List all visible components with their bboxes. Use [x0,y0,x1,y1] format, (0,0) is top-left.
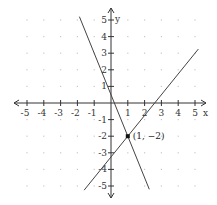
grid-dot [178,185,179,186]
grid-dot [194,36,195,37]
grid-dot [43,136,44,137]
grid-dot [161,53,162,54]
grid-dot [43,19,44,20]
y-tick-label: -1 [98,115,107,125]
coordinate-plane: -5-4-3-2-112345-5-4-3-2-112345xy (1, −2) [0,0,217,205]
grid-dot [26,169,27,170]
grid-dot [77,136,78,137]
grid-dot [60,136,61,137]
grid-dot [77,86,78,87]
grid-dot [94,86,95,87]
grid-dot [178,36,179,37]
grid-dot [43,152,44,153]
grid-dot [60,169,61,170]
x-tick-label: -2 [71,108,80,118]
grid-dot [43,53,44,54]
grid-dot [94,169,95,170]
grid-dot [94,36,95,37]
y-tick-label: -4 [98,164,107,174]
grid-dot [178,152,179,153]
grid-dot [194,119,195,120]
y-tick-label: -3 [98,148,107,158]
x-tick-label: -3 [54,108,63,118]
x-tick-label: 3 [159,108,165,118]
grid-dot [144,152,145,153]
grid-dot [26,19,27,20]
grid-dot [43,86,44,87]
y-tick-label: 3 [101,48,107,58]
x-tick-label: 5 [192,108,198,118]
grid-dot [26,53,27,54]
grid-dot [77,36,78,37]
grid-dot [94,19,95,20]
grid-dot [194,185,195,186]
x-tick-label: 4 [175,108,181,118]
grid-dot [144,119,145,120]
grid-dot [60,152,61,153]
grid-dot [60,19,61,20]
grid-dot [26,136,27,137]
grid-dot [94,152,95,153]
grid-dot [60,53,61,54]
grid-dot [178,169,179,170]
grid-dot [144,36,145,37]
x-tick-label: -5 [21,108,30,118]
grid-dot [161,69,162,70]
grid-dot [94,69,95,70]
grid-dot [144,19,145,20]
grid-dot [127,86,128,87]
grid-dot [43,69,44,70]
grid-dot [178,53,179,54]
grid-dot [26,36,27,37]
grid-dot [77,152,78,153]
grid-dot [144,185,145,186]
grid-dot [161,19,162,20]
grid-dot [77,185,78,186]
grid-dot [144,169,145,170]
x-tick-label: -4 [37,108,46,118]
grid-dot [60,69,61,70]
grid-dot [60,36,61,37]
y-tick-label: -2 [98,131,107,141]
grid-dot [60,185,61,186]
grid-dot [178,86,179,87]
grid-dot [194,136,195,137]
grid-dot [144,86,145,87]
grid-dot [161,86,162,87]
grid-dot [194,169,195,170]
grid-dot [178,136,179,137]
grid-dot [26,69,27,70]
grid-dot [161,119,162,120]
grid-dot [43,119,44,120]
grid-dot [178,119,179,120]
point-label: (1, −2) [133,131,165,141]
grid-dot [178,69,179,70]
grid-dot [77,169,78,170]
x-tick-label: -1 [88,108,97,118]
grid-dot [144,69,145,70]
grid-dot [194,152,195,153]
y-tick-label: -5 [98,181,107,191]
grid-dot [127,119,128,120]
grid-dot [94,119,95,120]
x-tick-label: 1 [125,108,131,118]
grid-dot [144,53,145,54]
grid-dot [77,119,78,120]
grid-dot [127,53,128,54]
grid-dot [161,185,162,186]
x-axis-label: x [203,108,208,118]
grid-dot [26,86,27,87]
grid-dot [94,185,95,186]
grid-dot [127,36,128,37]
grid-dot [43,36,44,37]
grid-dot [127,185,128,186]
grid-dot [127,69,128,70]
point-marker [126,134,130,138]
grid-dot [161,36,162,37]
grid-dot [26,152,27,153]
grid-dot [194,19,195,20]
y-axis-label: y [114,14,121,24]
grid-dot [77,69,78,70]
grid-dot [26,119,27,120]
grid-dot [77,19,78,20]
